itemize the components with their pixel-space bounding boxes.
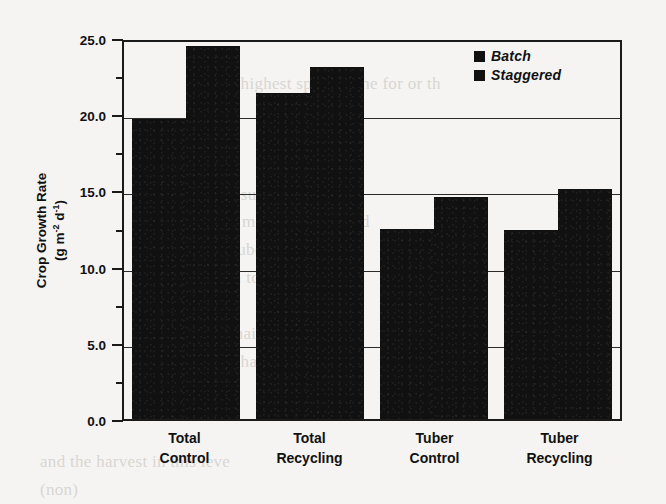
- legend-label: Staggered: [491, 67, 561, 83]
- y-axis-tick-label: 0.0: [87, 414, 106, 429]
- bar[interactable]: [504, 230, 558, 419]
- x-axis-category-line: Recycling: [250, 448, 370, 468]
- y-axis-title-line1: Crop Growth Rate: [34, 173, 51, 289]
- bar[interactable]: [380, 229, 434, 420]
- x-axis-category-line: Tuber: [375, 428, 495, 448]
- y-axis-tick-label: 15.0: [80, 185, 106, 200]
- legend-item[interactable]: Batch: [474, 48, 561, 64]
- bar[interactable]: [434, 197, 488, 420]
- bar-group: [256, 42, 364, 419]
- x-axis-category-line: Total: [125, 428, 245, 448]
- x-axis-category-label: TotalRecycling: [250, 428, 370, 469]
- bar-group: [380, 42, 488, 419]
- chart-legend: BatchStaggered: [474, 48, 561, 86]
- x-axis-category-line: Recycling: [500, 448, 620, 468]
- y-axis-tick-label: 5.0: [87, 337, 106, 352]
- legend-label: Batch: [491, 48, 531, 64]
- bar-series-container: [124, 42, 620, 419]
- bar[interactable]: [186, 46, 240, 419]
- y-axis-tick-label: 10.0: [80, 261, 106, 276]
- bar-group: [504, 42, 612, 419]
- x-axis-category-line: Control: [125, 448, 245, 468]
- bar[interactable]: [256, 93, 310, 419]
- legend-swatch-icon: [474, 51, 485, 62]
- bar[interactable]: [558, 189, 612, 419]
- y-axis-title-line2: (g m-2 d-1): [52, 200, 69, 261]
- x-axis-category-line: Total: [250, 428, 370, 448]
- x-axis-labels: TotalControlTotalRecyclingTuberControlTu…: [122, 428, 622, 469]
- x-axis-category-label: TuberRecycling: [500, 428, 620, 469]
- bar[interactable]: [310, 67, 364, 419]
- legend-item[interactable]: Staggered: [474, 67, 561, 83]
- x-axis-category-line: Control: [375, 448, 495, 468]
- y-axis-tick-label: 20.0: [80, 109, 106, 124]
- plot-area: [122, 40, 622, 421]
- bar-group: [132, 42, 240, 419]
- bar-chart-figure: Crop Growth Rate (g m-2 d-1) 0.05.010.01…: [0, 0, 666, 504]
- bar[interactable]: [132, 119, 186, 419]
- x-axis-category-label: TuberControl: [375, 428, 495, 469]
- legend-swatch-icon: [474, 70, 485, 81]
- x-axis-category-label: TotalControl: [125, 428, 245, 469]
- y-axis-tick-label: 25.0: [80, 33, 106, 48]
- x-axis-category-line: Tuber: [500, 428, 620, 448]
- y-axis-title: Crop Growth Rate (g m-2 d-1): [20, 40, 82, 421]
